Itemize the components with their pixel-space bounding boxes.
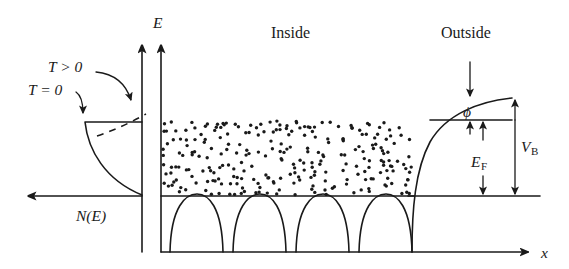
- electron-dot: [181, 154, 184, 157]
- electron-dot: [162, 154, 165, 157]
- electron-dot: [174, 165, 177, 168]
- electron-dot: [163, 122, 166, 125]
- electron-dot: [297, 175, 300, 178]
- electron-dot: [227, 143, 230, 146]
- electron-dot: [289, 173, 292, 176]
- electron-dot: [309, 176, 312, 179]
- electron-dot: [185, 144, 188, 147]
- electron-dot: [241, 186, 244, 189]
- electron-dot: [243, 190, 246, 193]
- electron-dot: [314, 135, 317, 138]
- electron-dot: [326, 137, 329, 140]
- electron-dot: [178, 190, 181, 193]
- electron-dot: [232, 167, 235, 170]
- electron-dot: [217, 192, 220, 195]
- electron-dot: [258, 186, 261, 189]
- electron-dot: [313, 125, 316, 128]
- electron-dot: [302, 161, 305, 164]
- electron-dot: [225, 148, 228, 151]
- electron-dot: [167, 184, 170, 187]
- electron-dot: [364, 178, 367, 181]
- electron-dot: [237, 125, 240, 128]
- electron-dot: [398, 126, 401, 129]
- electron-dot: [306, 147, 309, 150]
- electron-dot: [280, 142, 283, 145]
- electron-dot: [324, 179, 327, 182]
- electron-dot: [221, 164, 224, 167]
- electron-dot: [383, 183, 386, 186]
- electron-dot: [327, 141, 330, 144]
- electron-dot: [226, 132, 229, 135]
- electron-dot: [295, 120, 298, 123]
- electron-dot: [268, 120, 271, 123]
- electron-dot: [303, 168, 306, 171]
- electron-dot: [365, 133, 368, 136]
- electron-dot: [165, 129, 168, 132]
- electron-dot: [172, 138, 175, 141]
- electron-dot: [232, 175, 235, 178]
- electron-dot: [400, 192, 403, 195]
- electron-dot: [341, 169, 344, 172]
- electron-dot: [292, 163, 295, 166]
- electron-dot: [170, 120, 173, 123]
- electron-dot: [238, 143, 241, 146]
- electron-dot: [406, 178, 409, 181]
- electron-dot: [163, 182, 166, 185]
- electron-dot: [373, 136, 376, 139]
- t-positive-pointer-arrow: [96, 72, 131, 100]
- electron-dot: [179, 186, 182, 189]
- electron-dot: [247, 131, 250, 134]
- label-density-of-states: N(E): [75, 207, 106, 225]
- electron-dot: [313, 174, 316, 177]
- electron-dot: [285, 127, 288, 130]
- electron-dot: [236, 176, 239, 179]
- electron-dot: [357, 145, 360, 148]
- electron-dot: [370, 177, 373, 180]
- electron-dot: [209, 169, 212, 172]
- potential-well-2: [233, 194, 286, 252]
- electron-dot: [308, 126, 311, 129]
- electron-dot: [162, 163, 165, 166]
- electron-dot: [329, 121, 332, 124]
- electron-dot: [324, 170, 327, 173]
- electron-dot: [175, 178, 178, 181]
- electron-dot: [382, 121, 385, 124]
- electron-dot: [249, 124, 252, 127]
- electron-dot: [220, 152, 223, 155]
- electron-dot: [393, 142, 396, 145]
- electron-dot: [345, 182, 348, 185]
- electron-dot: [193, 126, 196, 129]
- energy-band-diagram: T = 0 T > 0 N(E) E x Inside Outside: [0, 0, 569, 269]
- electron-dot: [166, 142, 169, 145]
- electron-dot: [185, 168, 188, 171]
- electron-dot: [221, 122, 224, 125]
- electron-dot: [386, 151, 389, 154]
- electron-dot: [210, 147, 213, 150]
- electron-dot: [204, 189, 207, 192]
- electron-dot: [404, 167, 407, 170]
- electron-dot: [391, 169, 394, 172]
- electron-dot: [256, 182, 259, 185]
- electron-dot: [408, 192, 411, 195]
- label-barrier-height-sub: B: [531, 145, 538, 157]
- surface-barrier-curve: [412, 98, 512, 252]
- electron-dot: [266, 191, 269, 194]
- electron-dot: [408, 171, 411, 174]
- electron-dot: [390, 182, 393, 185]
- electron-dot: [178, 151, 181, 154]
- label-fermi-energy-sub: F: [481, 160, 487, 172]
- electron-dot: [389, 134, 392, 137]
- electron-dot: [349, 124, 352, 127]
- electron-dot: [234, 123, 237, 126]
- electron-dot: [368, 159, 371, 162]
- electron-dot: [322, 155, 325, 158]
- electron-dot: [184, 188, 187, 191]
- electron-dot: [285, 147, 288, 150]
- electron-dot: [242, 169, 245, 172]
- electron-dot: [341, 138, 344, 141]
- electron-dot: [340, 153, 343, 156]
- electron-dot: [361, 150, 364, 153]
- electron-dot: [240, 177, 243, 180]
- electron-dot: [264, 154, 267, 157]
- electron-dot: [313, 191, 316, 194]
